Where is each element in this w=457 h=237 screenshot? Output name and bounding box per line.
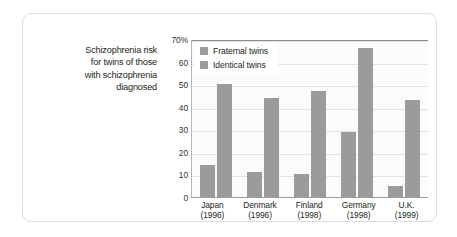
- x-tick-country: Finland: [296, 200, 323, 210]
- bar: [405, 100, 420, 197]
- legend-swatch-identical: [200, 61, 208, 69]
- x-tick-country: Germany: [342, 200, 376, 210]
- legend-swatch-fraternal: [200, 47, 208, 55]
- x-tick-country: Denmark: [243, 200, 276, 210]
- bar-group: [341, 41, 373, 197]
- x-tick-year: (1998): [342, 210, 376, 220]
- bar-group: [294, 41, 326, 197]
- x-tick-label: Germany(1998): [342, 200, 376, 221]
- x-tick-label: U.K.(1999): [395, 200, 419, 221]
- x-tick-label: Finland(1998): [296, 200, 323, 221]
- x-tick-label: Japan(1996): [201, 200, 225, 221]
- x-tick-year: (1996): [243, 210, 276, 220]
- y-tick-label: 10: [179, 170, 188, 180]
- bar: [247, 172, 262, 197]
- caption-line: for twins of those: [33, 56, 157, 68]
- axis-baseline: [192, 197, 428, 198]
- caption-line: with schizophrenia: [33, 69, 157, 81]
- bar: [200, 165, 215, 197]
- x-tick-country: U.K.: [395, 200, 419, 210]
- y-tick-label: 60: [179, 58, 188, 68]
- bar: [341, 132, 356, 197]
- y-tick-label: 30: [179, 125, 188, 135]
- figure-caption: Schizophrenia risk for twins of those wi…: [33, 44, 157, 94]
- legend-label-fraternal: Fraternal twins: [213, 46, 268, 56]
- y-tick-label: 20: [179, 148, 188, 158]
- chart-legend: Fraternal twins Identical twins: [194, 42, 278, 74]
- y-tick-label: 70%: [171, 35, 188, 45]
- legend-label-identical: Identical twins: [213, 60, 266, 70]
- caption-line: Schizophrenia risk: [33, 44, 157, 56]
- plot-area: Fraternal twins Identical twins: [191, 40, 428, 198]
- bar: [311, 91, 326, 197]
- bar: [264, 98, 279, 197]
- y-tick-label: 0: [183, 193, 188, 203]
- bar-group: [388, 41, 420, 197]
- x-tick-label: Denmark(1996): [243, 200, 276, 221]
- x-tick-year: (1996): [201, 210, 225, 220]
- y-tick-label: 40: [179, 103, 188, 113]
- x-tick-year: (1999): [395, 210, 419, 220]
- legend-item-fraternal: Fraternal twins: [200, 46, 268, 56]
- chart-figure: Schizophrenia risk for twins of those wi…: [0, 0, 457, 237]
- bar: [217, 84, 232, 197]
- x-tick-country: Japan: [201, 200, 225, 210]
- bar-chart: 010203040506070% Fraternal twins Identic…: [156, 28, 428, 208]
- x-tick-year: (1998): [296, 210, 323, 220]
- figure-card: Schizophrenia risk for twins of those wi…: [22, 13, 437, 222]
- bar: [294, 174, 309, 197]
- y-tick-label: 50: [179, 80, 188, 90]
- bar: [358, 48, 373, 197]
- legend-item-identical: Identical twins: [200, 60, 268, 70]
- x-axis: Japan(1996)Denmark(1996)Finland(1998)Ger…: [191, 200, 428, 221]
- y-axis: 010203040506070%: [156, 28, 188, 180]
- bar: [388, 186, 403, 197]
- caption-line: diagnosed: [33, 81, 157, 93]
